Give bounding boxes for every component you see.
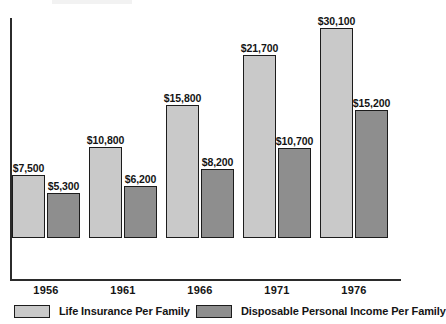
bar-value-label: $6,200	[125, 173, 157, 185]
chart-legend: Life Insurance Per Family Disposable Per…	[0, 303, 417, 324]
bar-value-label: $15,200	[353, 97, 390, 109]
bar-life-insurance-1961[interactable]: $10,800	[89, 147, 122, 238]
x-tick-label-1976: 1976	[320, 284, 388, 296]
bar-value-label: $15,800	[164, 92, 201, 104]
legend-item-life-insurance: Life Insurance Per Family	[14, 303, 190, 319]
bar-value-label: $30,100	[318, 15, 355, 27]
bar-value-label: $5,300	[48, 180, 80, 192]
bar-disposable-income-1966[interactable]: $8,200	[201, 169, 234, 238]
bar-value-label: $7,500	[13, 162, 45, 174]
bar-value-label: $10,800	[87, 134, 124, 146]
bar-life-insurance-1966[interactable]: $15,800	[166, 105, 199, 238]
x-tick-label-1966: 1966	[166, 284, 234, 296]
bar-value-label: $21,700	[241, 42, 278, 54]
bar-disposable-income-1971[interactable]: $10,700	[278, 148, 311, 238]
legend-label-life-insurance: Life Insurance Per Family	[59, 305, 190, 317]
legend-swatch-dark-gray	[196, 305, 232, 318]
x-tick-label-1956: 1956	[12, 284, 80, 296]
bar-life-insurance-1956[interactable]: $7,500	[12, 175, 45, 238]
legend-swatch-light-gray	[14, 305, 50, 318]
legend-label-disposable-income: Disposable Personal Income Per Family	[241, 305, 446, 317]
x-tick-label-1971: 1971	[243, 284, 311, 296]
legend-item-disposable-income: Disposable Personal Income Per Family	[196, 303, 446, 319]
bar-life-insurance-1971[interactable]: $21,700	[243, 55, 276, 238]
bar-disposable-income-1976[interactable]: $15,200	[355, 110, 388, 238]
plot-area: $7,500 $5,300 $10,800 $6,200 $15,800 $8,…	[0, 0, 417, 281]
bar-disposable-income-1961[interactable]: $6,200	[124, 186, 157, 238]
bar-life-insurance-1976[interactable]: $30,100	[320, 28, 353, 238]
x-tick-label-1961: 1961	[89, 284, 157, 296]
bar-value-label: $8,200	[202, 156, 234, 168]
bar-value-label: $10,700	[276, 135, 313, 147]
bar-disposable-income-1956[interactable]: $5,300	[47, 193, 80, 238]
